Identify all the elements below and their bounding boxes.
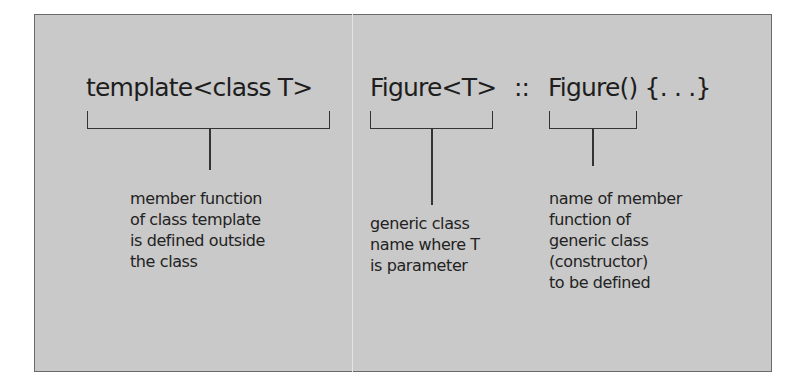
annotation-line: name where T bbox=[370, 234, 480, 255]
divider-line bbox=[352, 14, 353, 372]
annotation-line: is parameter bbox=[370, 255, 480, 276]
annotation-line: is defined outside bbox=[130, 230, 265, 251]
annotation-line: generic class bbox=[370, 213, 480, 234]
connector-constructor bbox=[592, 129, 594, 166]
annotation-line: (constructor) bbox=[549, 251, 682, 272]
code-scope-operator: :: bbox=[514, 72, 529, 104]
annotation-generic-class: generic class name where T is parameter bbox=[370, 213, 480, 276]
annotation-line: member function bbox=[130, 188, 265, 209]
connector-generic-class bbox=[431, 129, 433, 205]
code-constructor-definition: Figure() {. . .} bbox=[548, 72, 711, 104]
code-template-declaration: template<class T> bbox=[86, 72, 312, 104]
annotation-line: function of bbox=[549, 209, 682, 230]
code-generic-class-name: Figure<T> bbox=[370, 72, 496, 104]
annotation-constructor: name of member function of generic class… bbox=[549, 188, 682, 293]
annotation-line: of class template bbox=[130, 209, 265, 230]
bracket-template bbox=[87, 111, 330, 129]
bracket-generic-class bbox=[370, 111, 493, 129]
annotation-line: name of member bbox=[549, 188, 682, 209]
annotation-line: to be defined bbox=[549, 272, 682, 293]
bracket-constructor bbox=[549, 111, 637, 129]
annotation-template: member function of class template is def… bbox=[130, 188, 265, 272]
annotation-line: the class bbox=[130, 251, 265, 272]
annotation-line: generic class bbox=[549, 230, 682, 251]
connector-template bbox=[209, 129, 211, 170]
